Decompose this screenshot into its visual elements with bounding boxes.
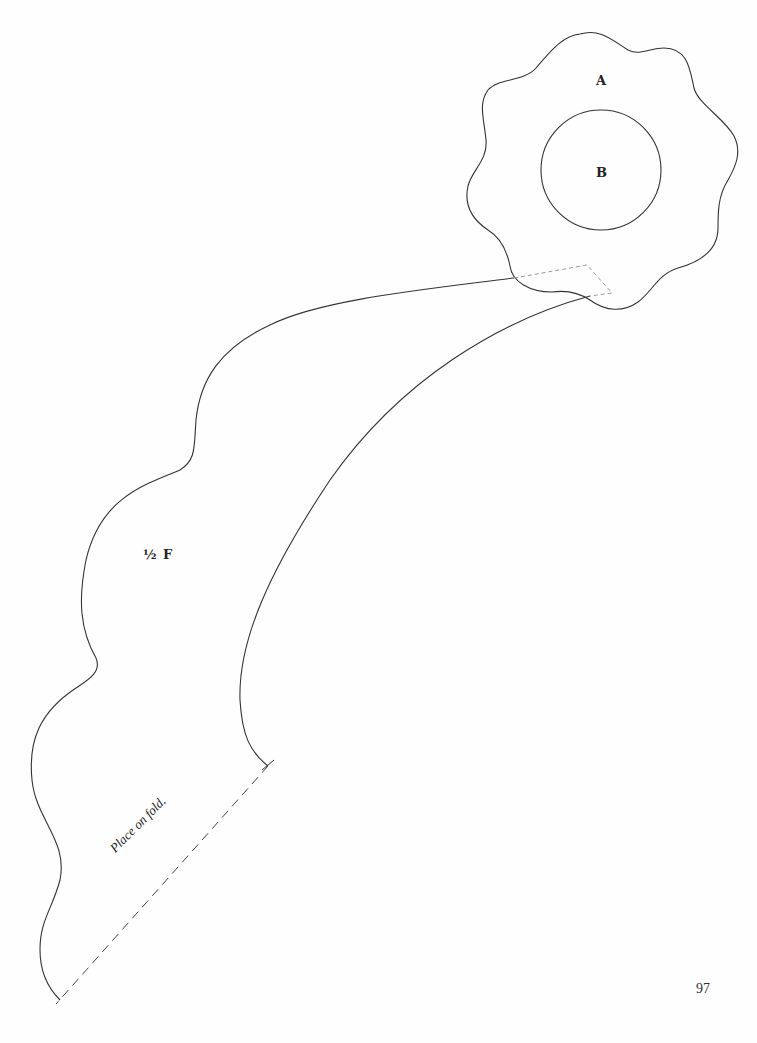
- piece-label-half-f: ½ F: [143, 547, 173, 562]
- pattern-page: A B ½ F Place on fold. 97: [0, 0, 757, 1043]
- stem-inner-edge: [240, 296, 590, 766]
- pattern-drawing: [0, 0, 757, 1043]
- stem-outer-edge: [31, 278, 514, 1000]
- piece-label-a: A: [596, 73, 606, 88]
- page-number: 97: [696, 981, 710, 997]
- piece-label-b: B: [596, 165, 607, 180]
- fold-tick: [262, 760, 274, 770]
